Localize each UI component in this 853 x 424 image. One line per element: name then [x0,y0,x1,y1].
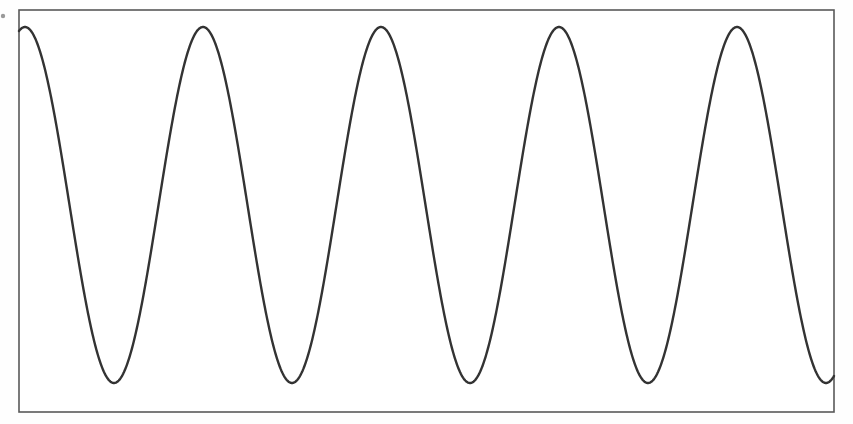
sine-wave-chart [0,0,853,424]
screenshot-root: sine waveform [0,0,853,424]
plot-figure [0,0,853,424]
scan-speck-artifact [1,14,5,18]
